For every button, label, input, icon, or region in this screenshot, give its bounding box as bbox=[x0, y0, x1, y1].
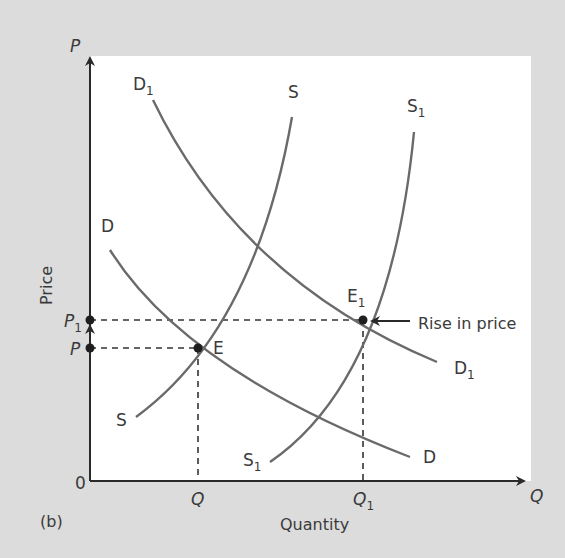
label-s-end: S bbox=[116, 410, 127, 430]
x-axis-label: Quantity bbox=[280, 515, 349, 534]
label-d-end: D bbox=[423, 447, 436, 467]
equilibrium-point-e bbox=[194, 344, 203, 353]
x-axis-symbol: Q bbox=[530, 486, 543, 506]
label-q1: Q1 bbox=[353, 489, 374, 513]
rise-in-price-annotation: Rise in price bbox=[418, 314, 516, 333]
label-p1: P1 bbox=[64, 311, 82, 335]
origin-label: 0 bbox=[75, 473, 86, 493]
y-axis-label: Price bbox=[37, 266, 56, 305]
equilibrium-point-e1 bbox=[359, 316, 368, 325]
label-e: E bbox=[213, 338, 224, 358]
panel-label: (b) bbox=[40, 512, 63, 531]
axis-point-p1 bbox=[86, 316, 95, 325]
supply-demand-chart: P Q 0 D1 S S1 D E1 E Rise in price D1 S … bbox=[0, 0, 565, 558]
label-q: Q bbox=[191, 489, 204, 509]
label-s: S bbox=[288, 82, 299, 102]
label-p: P bbox=[70, 339, 81, 359]
axis-point-p bbox=[86, 344, 95, 353]
label-d: D bbox=[101, 216, 114, 236]
y-axis-symbol: P bbox=[70, 36, 81, 56]
plot-area bbox=[90, 56, 531, 481]
